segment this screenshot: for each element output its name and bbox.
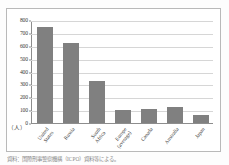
y-tick-label: 200	[20, 95, 28, 101]
chart-plot-area: 0100200300400500600700800	[31, 21, 213, 124]
figure-caption: 資料：国際刑事警察機構（ICPO）資料等による。	[7, 156, 225, 163]
bar	[63, 43, 79, 123]
y-tick-mark	[29, 33, 32, 34]
y-axis-unit-label: （人）	[8, 126, 26, 132]
bar-slot	[84, 21, 110, 123]
bar	[89, 81, 105, 123]
bar	[115, 110, 131, 123]
bar	[37, 27, 53, 123]
y-tick-mark	[29, 72, 32, 73]
chart-figure-frame: 0100200300400500600700800 （人） UnitedStat…	[6, 8, 221, 152]
x-axis-label: Europe(average)	[111, 126, 133, 149]
bar-slot	[162, 21, 188, 123]
y-tick-label: 600	[20, 44, 28, 50]
y-tick-mark	[29, 124, 32, 125]
y-tick-mark	[29, 21, 32, 22]
y-tick-label: 700	[20, 31, 28, 37]
y-tick-label: 800	[20, 18, 28, 24]
bar-slot	[32, 21, 58, 123]
bar	[141, 109, 157, 123]
bar-series	[32, 21, 213, 123]
x-axis-category-labels: UnitedStatesRussiaSouthAfricaEurope(aver…	[32, 125, 213, 155]
bar-slot	[136, 21, 162, 123]
x-axis-label: Japan	[194, 126, 206, 139]
x-axis-line	[31, 123, 213, 124]
y-tick-label: 300	[20, 83, 28, 89]
x-axis-label: Australia	[163, 126, 180, 145]
y-tick-mark	[29, 59, 32, 60]
x-axis-label: Russia	[62, 126, 76, 141]
y-tick-mark	[29, 85, 32, 86]
bar	[167, 107, 183, 123]
bar-slot	[188, 21, 214, 123]
y-tick-label: 100	[20, 108, 28, 114]
y-tick-mark	[29, 111, 32, 112]
screenshot-root: 0100200300400500600700800 （人） UnitedStat…	[0, 0, 229, 165]
y-tick-mark	[29, 98, 32, 99]
y-tick-label: 400	[20, 70, 28, 76]
y-tick-mark	[29, 46, 32, 47]
bar-slot	[58, 21, 84, 123]
x-axis-label: SouthAfrica	[89, 126, 107, 144]
x-axis-label: Canada	[139, 126, 154, 142]
x-axis-label: UnitedStates	[36, 126, 54, 145]
y-tick-label: 500	[20, 57, 28, 63]
bar	[193, 115, 209, 123]
bar-slot	[110, 21, 136, 123]
